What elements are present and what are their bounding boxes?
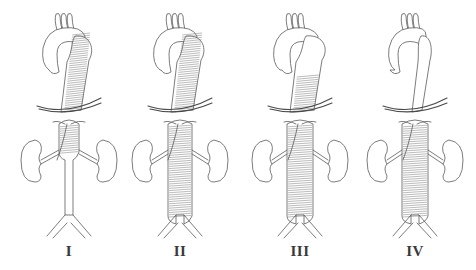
aorta-illustration-type-4 xyxy=(0,0,476,240)
type-label-4: IV xyxy=(406,243,424,260)
aorta-drawing xyxy=(367,13,463,238)
left-kidney xyxy=(367,140,387,182)
descending-thoracic-aorta xyxy=(412,36,431,112)
right-kidney xyxy=(443,140,463,182)
iliac-arteries xyxy=(393,215,437,238)
aortic-aneurysm-classification-figure: I II III IV xyxy=(0,0,476,270)
panel-type-4 xyxy=(0,0,476,270)
